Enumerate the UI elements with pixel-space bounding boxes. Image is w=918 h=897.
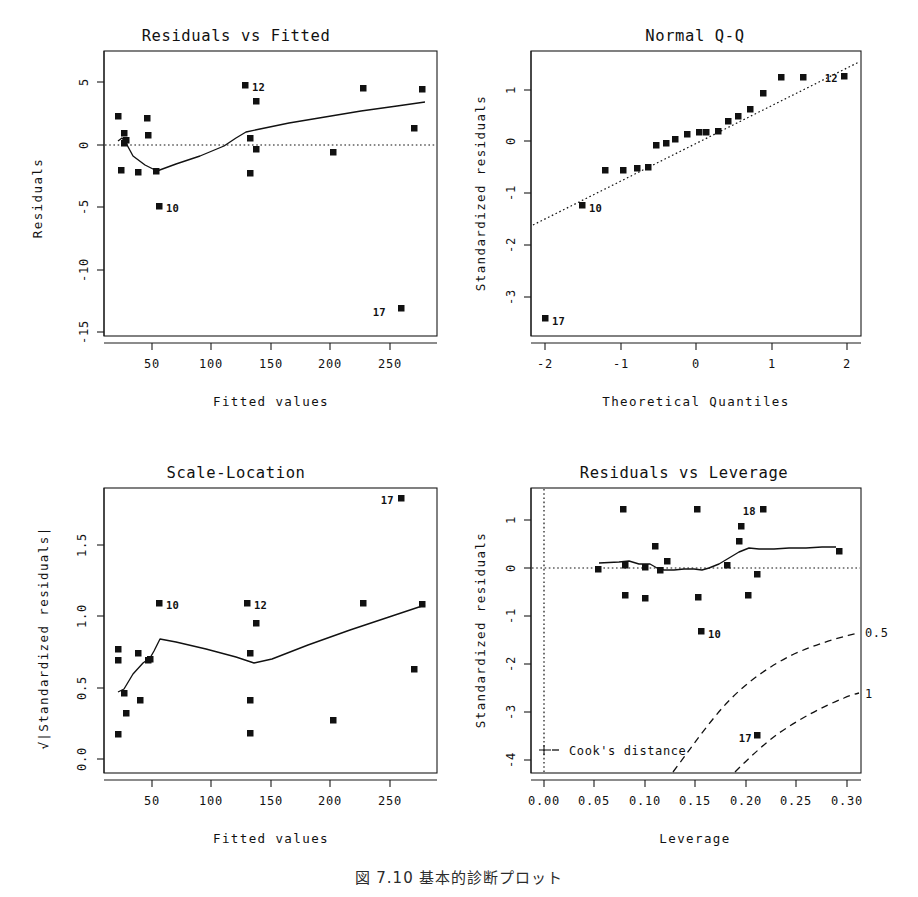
data-point [735,113,742,120]
y-tick-label: -1 [504,185,518,201]
data-point [115,657,122,664]
x-axis: -2 -1 0 1 2 Theoretical Quantiles [531,343,861,409]
data-point [760,90,767,97]
data-point [419,86,426,93]
data-point [135,650,142,657]
x-tick-label: 0.10 [629,794,661,808]
y-axis-label: Residuals [30,158,45,238]
y-axis-label: Standardized residuals [473,532,488,728]
lowess-smoother [599,547,836,570]
figure-caption: 図 7.10 基本的診断プロット [0,866,918,887]
data-point [360,600,367,607]
point-label-18: 18 [743,505,756,517]
data-point [253,620,260,627]
cooks-contour-label-1: 1 [865,687,873,701]
y-tick-label: 0 [504,137,518,145]
x-tick-label: 250 [378,794,402,808]
data-point [620,506,627,513]
point-label-17: 17 [381,494,394,506]
data-points [542,73,848,322]
data-point-labeled [156,203,163,210]
point-label-17: 17 [552,315,565,327]
x-tick-label: 100 [199,794,223,808]
data-point [145,132,152,139]
point-label-17: 17 [739,732,752,744]
lowess-smoother [118,605,425,692]
y-tick-label: 1 [504,86,518,94]
data-points [115,495,426,738]
data-point-labeled [398,495,405,502]
x-tick-label: 0.15 [679,794,711,808]
point-label-10: 10 [589,202,602,214]
y-tick-label: 1 [504,516,518,524]
data-point [642,595,649,602]
cooks-contour-label-05: 0.5 [865,626,888,640]
plot-frame [104,51,437,336]
panel-title: Normal Q-Q [645,27,744,45]
panel-scale-location: Scale-Location 1.5 1.0 0.5 0.0 √|Standar… [0,448,459,868]
y-axis-label: Standardized residuals [473,95,488,291]
x-tick-label: 150 [259,794,283,808]
data-point [694,506,701,513]
x-tick-label: 50 [144,794,160,808]
data-point [123,137,130,144]
data-point [836,548,843,555]
data-point [634,165,641,172]
data-point [695,594,702,601]
y-axis-label: √|Standardized residuals| [36,526,51,749]
x-tick-label: 0 [692,357,700,371]
x-tick-label: 200 [318,794,342,808]
y-axis: 1 0 -1 -2 -3 -4 Standardized residuals [473,488,531,773]
data-point-labeled [542,315,549,322]
x-tick-label: 50 [144,357,160,371]
point-label-10: 10 [708,628,721,640]
cooks-distance-contour-05 [673,633,858,772]
x-axis-label: Fitted values [213,831,329,846]
panel-residuals-vs-fitted: Residuals vs Fitted 5 0 -5 -10 -15 Resid… [0,18,459,438]
y-tick-label: 5 [77,78,91,86]
data-point [253,98,260,105]
x-tick-label: 100 [199,357,223,371]
data-point [664,558,671,565]
x-axis: 50 100 150 200 250 Fitted values [104,343,437,409]
x-tick-label: 2 [843,357,851,371]
data-point [247,135,254,142]
data-point [622,562,629,569]
data-point [411,125,418,132]
data-point-labeled [754,732,761,739]
x-tick-label: 0.30 [831,794,863,808]
cooks-distance-label: Cook's distance [569,744,686,758]
data-point [745,592,752,599]
y-tick-label: 0.0 [75,747,89,771]
x-tick-label: -1 [613,357,629,371]
data-point-labeled [841,73,848,80]
data-point [135,169,142,176]
data-point [121,690,128,697]
data-point [754,571,761,578]
panel-normal-qq: Normal Q-Q 1 0 -1 -2 -3 Standardized res… [459,18,918,438]
panel-title: Residuals vs Fitted [142,27,331,45]
data-point [118,167,125,174]
point-label-12: 12 [254,599,267,611]
cooks-distance-contour-1 [735,693,859,772]
data-point [642,564,649,571]
data-point [330,149,337,156]
x-tick-label: 0.05 [578,794,610,808]
data-point [595,566,602,573]
data-point [703,129,710,136]
data-points [595,506,843,739]
point-label-10: 10 [166,202,179,214]
data-point [115,646,122,653]
point-label-12: 12 [252,81,265,93]
x-tick-label: 200 [318,357,342,371]
y-tick-label: -2 [504,237,518,253]
y-tick-label: 0.5 [75,676,89,700]
y-axis: 1 0 -1 -2 -3 Standardized residuals [473,51,531,336]
data-point [620,167,627,174]
data-point [736,538,743,545]
data-point [360,85,367,92]
data-point [115,731,122,738]
x-axis-label: Leverage [659,831,730,846]
data-point [247,730,254,737]
x-tick-label: 0.20 [730,794,762,808]
